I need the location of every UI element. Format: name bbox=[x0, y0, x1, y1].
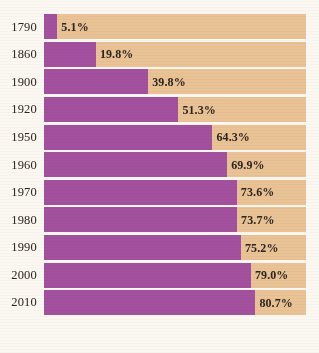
row-year-label: 1920 bbox=[0, 103, 44, 116]
row-value-label: 75.2% bbox=[245, 240, 279, 255]
row-year-label: 2000 bbox=[0, 269, 44, 282]
chart-row: 192051.3% bbox=[0, 96, 319, 124]
row-value-label: 64.3% bbox=[216, 130, 250, 145]
bar-chart: 17905.1%186019.8%190039.8%192051.3%19506… bbox=[0, 0, 319, 353]
row-year-label: 1960 bbox=[0, 159, 44, 172]
row-value-label: 73.6% bbox=[241, 185, 275, 200]
row-year-label: 1860 bbox=[0, 48, 44, 61]
row-bar-track: 73.6% bbox=[44, 180, 306, 205]
row-value-label: 79.0% bbox=[255, 268, 289, 283]
chart-row: 196069.9% bbox=[0, 151, 319, 179]
row-year-label: 1950 bbox=[0, 131, 44, 144]
row-bar-track: 73.7% bbox=[44, 207, 306, 232]
row-bar-fill bbox=[44, 125, 212, 150]
row-bar-fill bbox=[44, 69, 148, 94]
row-value-label: 80.7% bbox=[259, 295, 293, 310]
chart-row: 200079.0% bbox=[0, 261, 319, 289]
chart-row: 198073.7% bbox=[0, 206, 319, 234]
row-bar-track: 51.3% bbox=[44, 97, 306, 122]
row-bar-fill bbox=[44, 14, 57, 39]
row-year-label: 1790 bbox=[0, 21, 44, 34]
row-bar-fill bbox=[44, 97, 178, 122]
row-bar-track: 80.7% bbox=[44, 290, 306, 315]
row-value-label: 69.9% bbox=[231, 157, 265, 172]
row-year-label: 1970 bbox=[0, 186, 44, 199]
row-bar-fill bbox=[44, 290, 255, 315]
chart-rows: 17905.1%186019.8%190039.8%192051.3%19506… bbox=[0, 13, 319, 317]
chart-row: 195064.3% bbox=[0, 123, 319, 151]
row-year-label: 1980 bbox=[0, 214, 44, 227]
chart-row: 186019.8% bbox=[0, 41, 319, 69]
chart-row: 201080.7% bbox=[0, 289, 319, 317]
chart-row: 190039.8% bbox=[0, 68, 319, 96]
row-bar-track: 69.9% bbox=[44, 152, 306, 177]
row-bar-fill bbox=[44, 207, 237, 232]
row-bar-track: 64.3% bbox=[44, 125, 306, 150]
row-year-label: 1990 bbox=[0, 241, 44, 254]
row-year-label: 1900 bbox=[0, 76, 44, 89]
row-bar-fill bbox=[44, 152, 227, 177]
row-bar-track: 39.8% bbox=[44, 69, 306, 94]
row-value-label: 19.8% bbox=[100, 47, 134, 62]
row-bar-fill bbox=[44, 180, 237, 205]
chart-row: 17905.1% bbox=[0, 13, 319, 41]
row-bar-fill bbox=[44, 235, 241, 260]
row-value-label: 39.8% bbox=[152, 74, 186, 89]
row-value-label: 51.3% bbox=[182, 102, 216, 117]
row-bar-fill bbox=[44, 42, 96, 67]
chart-row: 199075.2% bbox=[0, 234, 319, 262]
row-bar-track: 79.0% bbox=[44, 263, 306, 288]
row-value-label: 73.7% bbox=[241, 212, 275, 227]
row-year-label: 2010 bbox=[0, 296, 44, 309]
row-bar-track: 19.8% bbox=[44, 42, 306, 67]
row-bar-track: 5.1% bbox=[44, 14, 306, 39]
row-bar-track: 75.2% bbox=[44, 235, 306, 260]
row-bar-fill bbox=[44, 263, 251, 288]
row-value-label: 5.1% bbox=[61, 19, 88, 34]
chart-row: 197073.6% bbox=[0, 179, 319, 207]
